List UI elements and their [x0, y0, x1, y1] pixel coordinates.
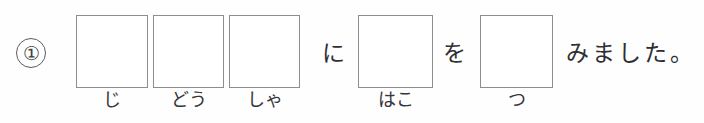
answer-slot-5[interactable]: つ — [480, 15, 553, 88]
answer-box-5[interactable] — [480, 15, 553, 88]
worksheet-question-row: ① じ どう しゃ に はこ を つ みました。 — [0, 0, 704, 123]
answer-box-3[interactable] — [229, 15, 300, 88]
furigana-label-1: じ — [76, 91, 148, 109]
question-number-badge: ① — [16, 38, 46, 68]
answer-slot-3[interactable]: しゃ — [229, 15, 300, 88]
answer-slot-1[interactable]: じ — [76, 15, 148, 88]
furigana-label-2: どう — [153, 91, 224, 109]
particle-wo: を — [443, 42, 466, 65]
particle-ni: に — [322, 42, 345, 65]
answer-slot-4[interactable]: はこ — [358, 15, 433, 88]
furigana-label-3: しゃ — [229, 91, 300, 109]
answer-box-2[interactable] — [153, 15, 224, 88]
sentence-tail-text: みました。 — [566, 42, 696, 65]
answer-box-1[interactable] — [76, 15, 148, 88]
answer-box-4[interactable] — [358, 15, 433, 88]
furigana-label-4: はこ — [358, 91, 433, 109]
furigana-label-5: つ — [480, 91, 553, 109]
answer-slot-2[interactable]: どう — [153, 15, 224, 88]
